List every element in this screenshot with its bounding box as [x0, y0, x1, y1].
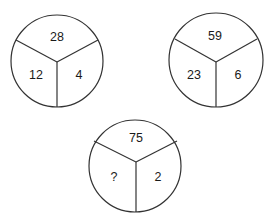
right-value: 2 [155, 170, 162, 184]
puzzle-circle-2: 59 23 6 [169, 13, 263, 107]
left-value: 12 [29, 68, 43, 82]
top-value: 59 [208, 29, 222, 43]
divider-line [216, 39, 257, 62]
right-value: 6 [235, 68, 242, 82]
left-value-unknown: ? [111, 170, 118, 184]
puzzle-circle-3: 75 ? 2 [89, 120, 181, 212]
top-value: 28 [50, 30, 64, 44]
puzzle-circle-1: 28 12 4 [11, 15, 103, 107]
left-value: 23 [187, 68, 201, 82]
number-circle-puzzle: 28 12 4 59 23 6 75 ? 2 [0, 0, 277, 224]
right-value: 4 [76, 68, 83, 82]
top-value: 75 [129, 131, 143, 145]
